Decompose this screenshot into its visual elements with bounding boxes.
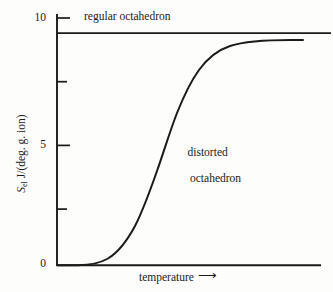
x-axis-label: temperature ⟶ xyxy=(139,270,215,285)
annotation-distorted-octahedron: distorted octahedron xyxy=(176,133,241,210)
y-axis-label-symbol: S xyxy=(15,187,27,193)
chart-canvas xyxy=(0,0,333,292)
y-axis-label-units: J/(deg. g. ion) xyxy=(15,114,27,181)
y-axis-label: Sel J/(deg. g. ion) xyxy=(2,94,41,224)
y-tick-label-10: 10 xyxy=(24,11,46,24)
annotation-regular-octahedron: regular octahedron xyxy=(84,10,171,23)
annotation-distorted-line1: distorted xyxy=(188,146,228,158)
figure-root: 10 5 0 regular octahedron distorted octa… xyxy=(0,0,333,292)
right-arrow-icon: ⟶ xyxy=(198,269,215,284)
x-axis-label-text: temperature xyxy=(139,271,194,284)
y-tick-label-0: 0 xyxy=(24,257,46,270)
annotation-distorted-line2: octahedron xyxy=(176,172,241,185)
y-axis-label-subscript: el xyxy=(20,181,29,187)
